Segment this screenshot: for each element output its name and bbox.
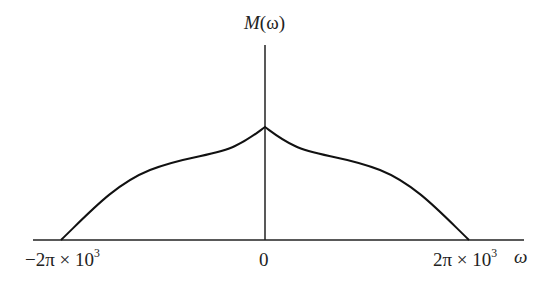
x-tick-right-exp: 3 (491, 247, 497, 260)
x-tick-left-exp: 3 (94, 247, 100, 260)
x-tick-center: 0 (259, 249, 269, 271)
x-tick-right-base: 2π × 10 (433, 249, 491, 270)
x-tick-left-base: −2π × 10 (25, 249, 94, 270)
x-axis-label-text: ω (514, 246, 527, 267)
spectrum-plot (0, 0, 557, 289)
x-tick-center-text: 0 (259, 249, 269, 270)
y-axis-label-name: M (244, 12, 260, 33)
y-axis-label: M(ω) (244, 12, 285, 34)
x-tick-left: −2π × 103 (25, 249, 100, 271)
x-tick-right: 2π × 103 (433, 249, 497, 271)
y-axis-label-arg: (ω) (260, 12, 285, 33)
x-axis-label: ω (514, 246, 527, 268)
